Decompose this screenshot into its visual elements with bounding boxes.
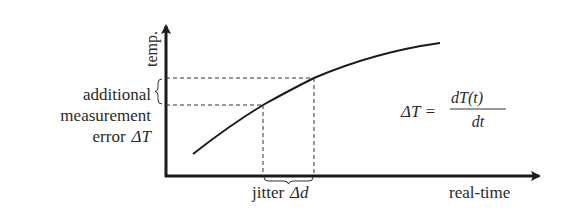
jitter-error-diagram: temp. additional measurement errorΔT jit… [0,0,569,217]
jitter-word: jitter [251,183,284,202]
x-axis-label: real-time [449,183,510,202]
jitter-label: jitterΔd [251,183,309,202]
y-axis-label: temp. [143,31,161,67]
formula-numerator: dT(t) [451,89,483,107]
annotation-line-additional: additional [83,85,151,104]
annotation-line-measurement: measurement [60,106,151,125]
delta-d-symbol: Δd [289,183,309,202]
delta-t-brace [155,79,162,104]
delta-t-symbol: ΔT [131,127,153,146]
annotation-line-error: errorΔT [93,127,153,146]
formula-lhs: ΔT = [400,102,436,121]
error-word: error [93,127,126,146]
temperature-curve [193,43,440,154]
formula-denominator: dt [472,113,485,130]
